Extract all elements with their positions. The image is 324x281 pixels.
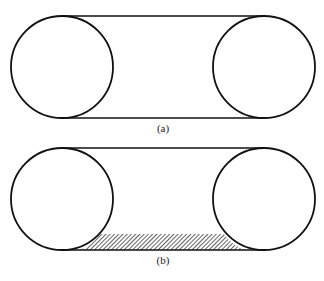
right-pulley-b (213, 148, 315, 250)
hatched-region (76, 232, 250, 252)
figure-b (11, 148, 315, 252)
figure-a (11, 16, 315, 118)
left-pulley-a (11, 16, 113, 118)
belt-pulley-diagram (0, 0, 324, 281)
figure-a-label: (a) (143, 122, 183, 134)
figure-b-label: (b) (143, 254, 183, 266)
left-pulley-b (11, 148, 113, 250)
right-pulley-a (213, 16, 315, 118)
